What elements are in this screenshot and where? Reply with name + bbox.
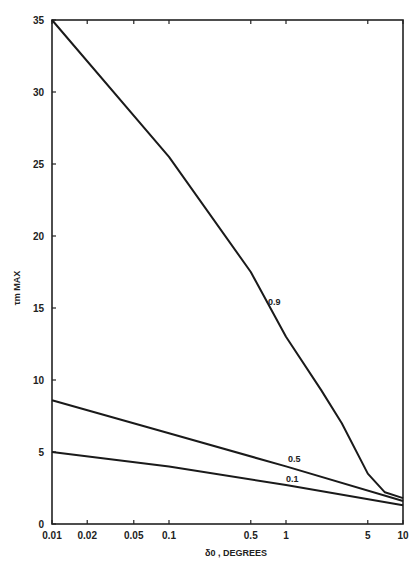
data-series: 0.90.50.1 (52, 20, 403, 505)
y-tick-label: 25 (33, 159, 45, 170)
x-tick-label: 0.1 (162, 530, 176, 541)
series-line-0-9 (52, 20, 403, 498)
y-tick-label: 20 (33, 231, 45, 242)
axis-ticks: 0.010.020.050.10.5151005101520253035 (33, 15, 409, 541)
x-tick-label: 10 (397, 530, 409, 541)
y-tick-label: 30 (33, 87, 45, 98)
plot-axes (52, 20, 403, 524)
y-tick-label: 35 (33, 15, 45, 26)
series-label: 0.9 (268, 297, 281, 307)
x-tick-label: 0.5 (244, 530, 258, 541)
series-line-0-1 (52, 452, 403, 505)
x-tick-label: 0.02 (77, 530, 97, 541)
y-tick-label: 10 (33, 375, 45, 386)
x-tick-label: 5 (365, 530, 371, 541)
x-tick-label: 1 (283, 530, 289, 541)
y-axis-title: τm MAX (12, 271, 22, 306)
x-tick-label: 0.05 (124, 530, 144, 541)
y-tick-label: 5 (38, 447, 44, 458)
y-tick-label: 0 (38, 519, 44, 530)
series-line-0-5 (52, 400, 403, 501)
y-tick-label: 15 (33, 303, 45, 314)
series-label: 0.5 (288, 454, 301, 464)
chart: 0.010.020.050.10.5151005101520253035 0.9… (0, 0, 413, 577)
x-axis-title: δ0 , DEGREES (205, 548, 267, 558)
plot-frame (52, 20, 403, 524)
x-tick-label: 0.01 (42, 530, 62, 541)
series-label: 0.1 (286, 474, 299, 484)
